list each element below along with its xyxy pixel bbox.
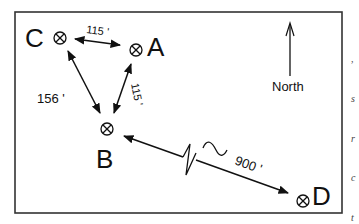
point-b-marker-icon [101, 123, 113, 135]
point-b-label: B [96, 144, 113, 174]
arrow-c-b [68, 51, 100, 113]
side-text-line: c [351, 171, 359, 184]
distance-c-b: 156 ' [37, 91, 65, 106]
cropped-side-text: , s r c t I c ( c [351, 26, 359, 224]
arrow-a-b [114, 64, 131, 113]
point-c: C [25, 23, 66, 53]
arrow-b-d [124, 136, 288, 193]
point-d-marker-icon [297, 195, 309, 207]
side-text-line: , [351, 52, 359, 65]
survey-diagram: C A B D 115 ' [0, 0, 359, 224]
distance-a-b: 115 ' [129, 82, 145, 107]
side-text-line: r [351, 132, 359, 145]
point-c-label: C [25, 23, 44, 53]
distance-c-a: 115 ' [86, 23, 110, 38]
distance-b-d: 900 ' [233, 153, 264, 177]
north-arrow-icon [286, 23, 294, 76]
break-tilde-icon [203, 142, 227, 155]
break-zigzag-icon [183, 144, 196, 175]
point-a-marker-icon [130, 44, 142, 56]
arrow-c-a [75, 39, 120, 45]
point-a-label: A [147, 32, 165, 62]
north-label: North [272, 79, 304, 94]
point-d: D [297, 181, 331, 211]
side-text-line: s [351, 92, 359, 105]
point-c-marker-icon [54, 32, 66, 44]
side-text-line: t [351, 211, 359, 224]
point-a: A [130, 32, 165, 62]
point-b: B [96, 123, 113, 174]
point-d-label: D [312, 181, 331, 211]
